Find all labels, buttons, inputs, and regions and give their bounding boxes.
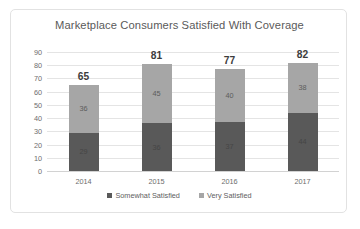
gridline-0 bbox=[47, 171, 339, 172]
bar-segment-value: 44 bbox=[298, 137, 306, 146]
plot-area: 0102030405060708090 29366520143645812015… bbox=[47, 52, 339, 171]
x-axis-tick-2017: 2017 bbox=[288, 177, 318, 186]
bar-group[interactable]: 4438822017 bbox=[288, 52, 318, 171]
bar-total-label: 82 bbox=[288, 49, 318, 60]
y-axis-tick-10: 10 bbox=[34, 153, 42, 162]
bar-segment-value: 37 bbox=[225, 142, 233, 151]
legend-label: Somewhat Satisfied bbox=[115, 191, 180, 200]
bar-segment-value: 45 bbox=[152, 89, 160, 98]
y-axis-tick-50: 50 bbox=[34, 100, 42, 109]
legend-label: Very Satisfied bbox=[207, 191, 252, 200]
bar-segment[interactable]: 45 bbox=[142, 64, 172, 124]
bar-segment-value: 38 bbox=[298, 83, 306, 92]
y-axis-tick-90: 90 bbox=[34, 48, 42, 57]
bar-segment[interactable]: 38 bbox=[288, 63, 318, 113]
y-axis-tick-20: 20 bbox=[34, 140, 42, 149]
bar-segment-value: 36 bbox=[79, 104, 87, 113]
bar-segment[interactable]: 36 bbox=[69, 85, 99, 133]
legend-swatch-icon bbox=[199, 193, 204, 198]
y-axis-tick-40: 40 bbox=[34, 114, 42, 123]
chart-title: Marketplace Consumers Satisfied With Cov… bbox=[11, 19, 348, 31]
bar-total-label: 65 bbox=[69, 71, 99, 82]
bar-segment[interactable]: 29 bbox=[69, 133, 99, 171]
y-axis-tick-80: 80 bbox=[34, 61, 42, 70]
bar-total-label: 81 bbox=[142, 50, 172, 61]
y-axis-tick-0: 0 bbox=[38, 167, 42, 176]
legend-swatch-icon bbox=[107, 193, 112, 198]
bar-segment-value: 36 bbox=[152, 143, 160, 152]
bar-segment-value: 40 bbox=[225, 91, 233, 100]
y-axis-tick-70: 70 bbox=[34, 74, 42, 83]
y-axis-tick-30: 30 bbox=[34, 127, 42, 136]
bar-group[interactable]: 3740772016 bbox=[215, 52, 245, 171]
x-axis-tick-2014: 2014 bbox=[69, 177, 99, 186]
legend-item[interactable]: Somewhat Satisfied bbox=[107, 191, 180, 200]
chart-legend: Somewhat SatisfiedVery Satisfied bbox=[11, 191, 348, 200]
bar-group[interactable]: 3645812015 bbox=[142, 52, 172, 171]
bar-group[interactable]: 2936652014 bbox=[69, 52, 99, 171]
bar-total-label: 77 bbox=[215, 55, 245, 66]
bar-segment[interactable]: 36 bbox=[142, 123, 172, 171]
bar-segment[interactable]: 44 bbox=[288, 113, 318, 171]
legend-item[interactable]: Very Satisfied bbox=[199, 191, 252, 200]
bar-segment[interactable]: 37 bbox=[215, 122, 245, 171]
y-axis-tick-60: 60 bbox=[34, 87, 42, 96]
chart-card: Marketplace Consumers Satisfied With Cov… bbox=[10, 9, 347, 213]
bar-segment-value: 29 bbox=[79, 147, 87, 156]
bar-segment[interactable]: 40 bbox=[215, 69, 245, 122]
x-axis-tick-2016: 2016 bbox=[215, 177, 245, 186]
x-axis-tick-2015: 2015 bbox=[142, 177, 172, 186]
